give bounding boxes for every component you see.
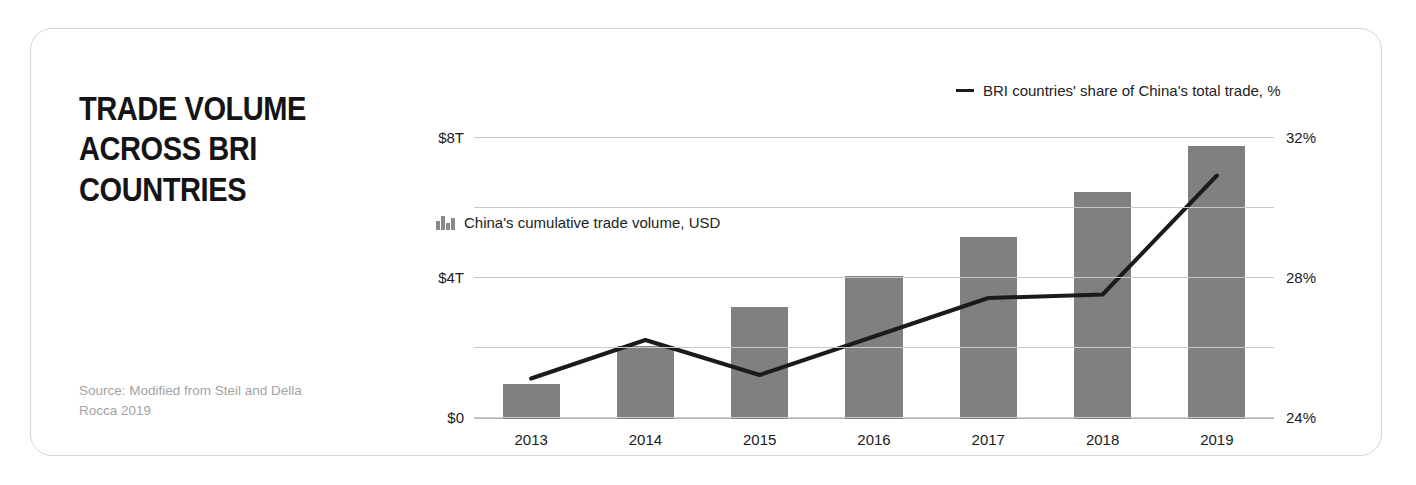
x-axis-tick: 2015 [743,431,776,448]
x-axis-tick: 2016 [857,431,890,448]
gridline [474,207,1274,208]
legend-label-line: BRI countries' share of China's total tr… [983,82,1281,99]
x-axis-tick: 2013 [514,431,547,448]
gridline [474,137,1274,138]
chart-legend: China's cumulative trade volume, USD BRI… [436,79,1336,109]
source-note: Source: Modified from Steil and Della Ro… [79,381,339,422]
y-axis-left-tick: $8T [438,129,464,146]
page-title: TRADE VOLUME ACROSS BRI COUNTRIES [79,89,343,210]
chart-axes: $0$4T$8T24%28%32% [474,137,1274,419]
gridline [474,277,1274,278]
line-dash-icon [956,89,974,92]
x-axis-tick: 2017 [972,431,1005,448]
bar-chart-icon [436,214,455,230]
y-axis-left-tick: $0 [447,409,464,426]
screenshot-root: TRADE VOLUME ACROSS BRI COUNTRIES Source… [0,0,1416,485]
legend-item-line: BRI countries' share of China's total tr… [956,82,1281,99]
title-block: TRADE VOLUME ACROSS BRI COUNTRIES [79,89,379,210]
y-axis-right-tick: 24% [1286,409,1316,426]
x-axis-labels: 2013201420152016201720182019 [474,431,1274,455]
chart-card: TRADE VOLUME ACROSS BRI COUNTRIES Source… [30,28,1382,456]
x-axis-tick: 2014 [629,431,662,448]
page-title-line-1: TRADE VOLUME [79,89,343,129]
x-axis-tick: 2019 [1200,431,1233,448]
line-series [474,137,1274,419]
y-axis-right-tick: 28% [1286,269,1316,286]
page-title-line-3: COUNTRIES [79,170,343,210]
page-title-line-2: ACROSS BRI [79,129,343,169]
chart-plot: China's cumulative trade volume, USD BRI… [436,79,1336,444]
y-axis-right-tick: 32% [1286,129,1316,146]
x-axis-tick: 2018 [1086,431,1119,448]
y-axis-left-tick: $4T [438,269,464,286]
gridline [474,347,1274,348]
gridline [474,417,1274,418]
